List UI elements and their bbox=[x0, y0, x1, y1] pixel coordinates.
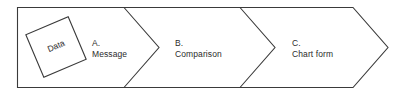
process-arrow-diagram: Data A. Message B. Comparison C. Chart f… bbox=[0, 0, 403, 96]
stage-b-text: Comparison bbox=[175, 49, 222, 60]
stage-c-letter: C. bbox=[292, 38, 333, 49]
stage-b-letter: B. bbox=[175, 38, 222, 49]
stage-a-text: Message bbox=[92, 49, 127, 60]
stage-c-label: C. Chart form bbox=[292, 38, 333, 60]
stage-c-text: Chart form bbox=[292, 49, 333, 60]
stage-a-label: A. Message bbox=[92, 38, 127, 60]
stage-b-label: B. Comparison bbox=[175, 38, 222, 60]
stage-a-letter: A. bbox=[92, 38, 127, 49]
